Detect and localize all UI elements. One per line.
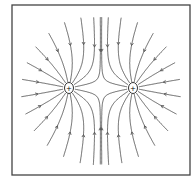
field-line — [75, 17, 101, 87]
field-line — [136, 47, 166, 83]
field-line — [36, 47, 66, 83]
field-line — [49, 33, 68, 82]
field-lines-diagram: ++ — [0, 0, 196, 179]
field-line — [72, 93, 83, 163]
field-line — [134, 94, 155, 146]
field-line — [47, 94, 68, 146]
field-line — [136, 93, 168, 131]
charge-label: + — [66, 85, 72, 93]
field-line — [134, 33, 153, 82]
field-line — [102, 17, 128, 87]
frame — [12, 5, 190, 175]
field-line — [75, 89, 101, 164]
field-line — [72, 18, 83, 83]
field-line — [102, 89, 128, 164]
field-line — [74, 91, 95, 165]
field-line — [108, 91, 129, 165]
field-line — [130, 94, 139, 157]
field-line — [64, 94, 73, 157]
charge-label: + — [130, 85, 136, 93]
field-line — [34, 93, 66, 131]
field-lines — [21, 17, 180, 165]
field-line — [118, 93, 129, 163]
field-line — [118, 18, 129, 83]
